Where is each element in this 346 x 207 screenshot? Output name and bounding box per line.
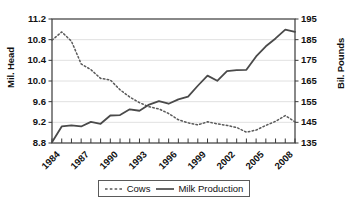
series-line-milk-production bbox=[52, 30, 295, 143]
legend-item-cows: Cows bbox=[105, 183, 151, 194]
series-line-cows bbox=[52, 32, 295, 132]
legend-swatch-dotted-line bbox=[105, 186, 123, 192]
y-axis-left-tick: 10.8 bbox=[18, 34, 46, 45]
legend-item-milk-production: Milk Production bbox=[156, 183, 243, 194]
y-axis-right-tick: 155 bbox=[301, 96, 331, 107]
y-axis-right-tick: 185 bbox=[301, 34, 331, 45]
y-axis-left-tick: 10.0 bbox=[18, 75, 46, 86]
y-axis-right-tick: 165 bbox=[301, 75, 331, 86]
legend-swatch-solid-line bbox=[156, 186, 174, 192]
legend-label-milk-production: Milk Production bbox=[178, 183, 243, 194]
chart-legend: Cows Milk Production bbox=[98, 180, 250, 197]
y-axis-right-tick: 135 bbox=[301, 137, 331, 148]
y-axis-left-tick: 9.6 bbox=[18, 96, 46, 107]
y-axis-left-tick: 9.2 bbox=[18, 116, 46, 127]
y-axis-right-title: Bil. Pounds bbox=[335, 26, 346, 102]
y-axis-left-tick: 11.2 bbox=[18, 13, 46, 24]
y-axis-left-title: Mil. Head bbox=[5, 34, 16, 102]
y-axis-left-tick: 8.8 bbox=[18, 137, 46, 148]
y-axis-right-tick: 195 bbox=[301, 13, 331, 24]
chart-container: Mil. Head Bil. Pounds 8.89.29.610.010.41… bbox=[0, 0, 346, 207]
legend-label-cows: Cows bbox=[127, 183, 151, 194]
y-axis-right-tick: 145 bbox=[301, 116, 331, 127]
y-axis-left-tick: 10.4 bbox=[18, 54, 46, 65]
y-axis-right-tick: 175 bbox=[301, 54, 331, 65]
